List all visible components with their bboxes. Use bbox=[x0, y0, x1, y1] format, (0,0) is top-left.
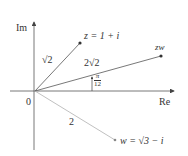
zw-modulus-label: 2√2 bbox=[84, 58, 100, 68]
origin-label: 0 bbox=[26, 97, 31, 107]
angle-denominator: 12 bbox=[94, 81, 101, 88]
im-axis-label: Im bbox=[16, 23, 27, 33]
vector-w bbox=[35, 91, 115, 140]
re-axis-label: Re bbox=[159, 97, 170, 107]
vector-z bbox=[35, 43, 80, 91]
w-label: w = √3 − i bbox=[120, 136, 163, 146]
point-w bbox=[114, 139, 117, 142]
point-zw bbox=[159, 54, 162, 57]
angle-label: π 12 bbox=[94, 73, 101, 88]
w-modulus-label: 2 bbox=[69, 117, 74, 127]
zw-label: zw bbox=[155, 43, 165, 52]
point-z bbox=[78, 41, 81, 44]
z-label: z = 1 + i bbox=[84, 31, 119, 41]
z-modulus-label: √2 bbox=[42, 55, 53, 65]
